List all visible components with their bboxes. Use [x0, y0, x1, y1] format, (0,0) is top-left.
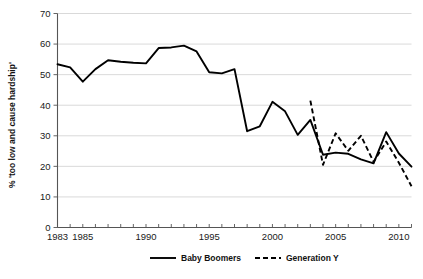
- x-tick-label: 1985: [72, 231, 93, 242]
- y-tick-label: 70: [40, 8, 51, 19]
- y-tick-label: 40: [40, 100, 51, 111]
- legend-label-generation-y: Generation Y: [286, 253, 339, 263]
- y-tick-label: 60: [40, 38, 51, 49]
- legend-label-baby-boomers: Baby Boomers: [181, 253, 241, 263]
- y-tick-label: 10: [40, 191, 51, 202]
- y-tick-label: 30: [40, 130, 51, 141]
- x-tick-label: 2010: [388, 231, 409, 242]
- x-tick-label: 2000: [262, 231, 283, 242]
- x-tick-label: 1995: [199, 231, 220, 242]
- chart-container: 010203040506070 198319851990199520002005…: [0, 0, 423, 279]
- x-tick-label: 1983: [47, 231, 68, 242]
- y-tick-label: 20: [40, 161, 51, 172]
- line-chart: 010203040506070 198319851990199520002005…: [0, 0, 423, 279]
- y-tick-label: 50: [40, 69, 51, 80]
- x-tick-label: 2005: [325, 231, 346, 242]
- x-tick-label: 1990: [135, 231, 156, 242]
- y-axis-title: % 'too low and cause hardship': [7, 62, 17, 188]
